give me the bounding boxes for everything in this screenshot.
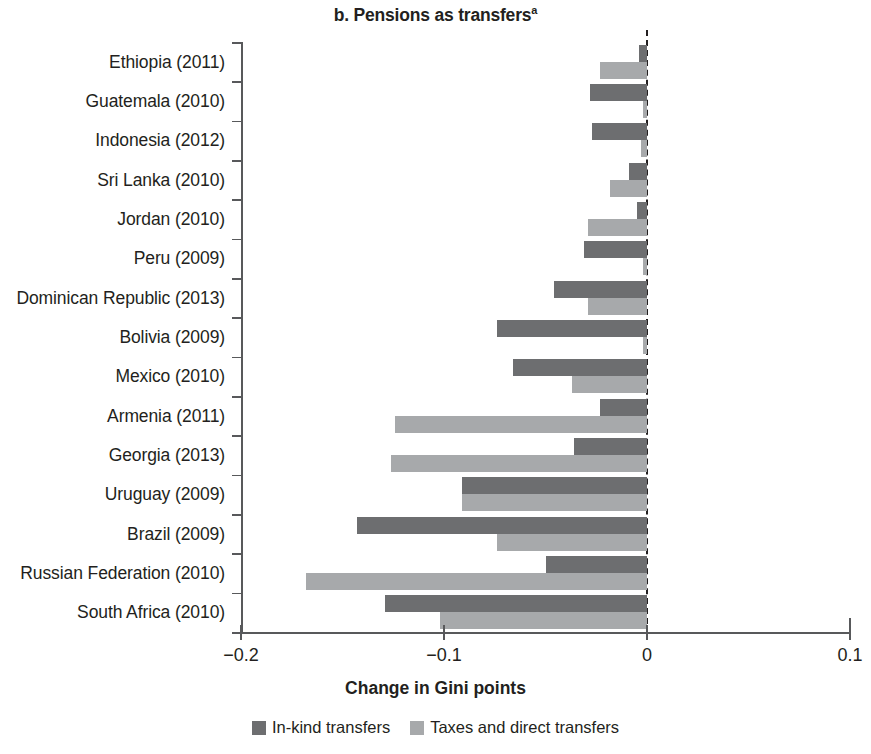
bar-taxes-direct	[572, 376, 647, 393]
y-axis-tick	[232, 121, 242, 123]
bar-in-kind	[639, 45, 647, 62]
bar-taxes-direct	[641, 140, 647, 157]
legend-label: In-kind transfers	[272, 718, 390, 737]
bar-in-kind	[592, 123, 647, 140]
bar-taxes-direct	[643, 337, 647, 354]
bar-in-kind	[462, 477, 647, 494]
y-axis-tick	[232, 239, 242, 241]
y-axis-line	[241, 42, 243, 633]
bar-taxes-direct	[588, 219, 647, 236]
y-axis-tick	[232, 160, 242, 162]
y-axis-tick	[232, 357, 242, 359]
bar-taxes-direct	[440, 612, 647, 629]
y-axis-tick	[232, 553, 242, 555]
x-axis-tick	[646, 625, 648, 640]
x-axis-tick	[443, 625, 445, 640]
x-axis-ticklabel: 0.1	[837, 645, 862, 666]
bar-taxes-direct	[497, 534, 647, 551]
bar-taxes-direct	[395, 416, 647, 433]
bar-taxes-direct	[610, 180, 647, 197]
y-axis-label: Mexico (2010)	[115, 366, 225, 387]
y-axis-label: Armenia (2011)	[107, 405, 225, 426]
x-axis-ticklabel: 0	[642, 645, 652, 666]
x-axis-ticklabel: −0.1	[426, 645, 462, 666]
y-axis-tick	[232, 435, 242, 437]
bar-taxes-direct	[391, 455, 647, 472]
y-axis-tick	[232, 514, 242, 516]
bar-taxes-direct	[643, 101, 647, 118]
bar-in-kind	[629, 163, 647, 180]
bar-taxes-direct	[588, 298, 647, 315]
y-axis-label: Peru (2009)	[134, 248, 225, 269]
y-axis-tick	[232, 81, 242, 83]
x-axis-line	[241, 632, 851, 634]
bar-in-kind	[513, 359, 647, 376]
bar-taxes-direct	[306, 573, 647, 590]
bar-taxes-direct	[643, 258, 647, 275]
y-axis-label: Guatemala (2010)	[86, 91, 225, 112]
y-axis-tick	[232, 278, 242, 280]
y-axis-label: Georgia (2013)	[109, 445, 225, 466]
y-axis-label: Uruguay (2009)	[105, 484, 225, 505]
y-axis-label: Brazil (2009)	[127, 523, 225, 544]
legend-swatch-icon	[252, 721, 266, 735]
x-axis-ticklabel: −0.2	[223, 645, 259, 666]
x-axis-title: Change in Gini points	[0, 678, 871, 699]
bar-in-kind	[357, 517, 647, 534]
bar-in-kind	[546, 556, 648, 573]
legend-swatch-icon	[410, 721, 424, 735]
y-axis-tick	[232, 593, 242, 595]
legend-entry: In-kind transfers	[252, 718, 390, 737]
chart-figure: b. Pensions as transfersa Ethiopia (2011…	[0, 0, 871, 754]
bar-in-kind	[385, 595, 647, 612]
x-axis-tick	[849, 625, 851, 640]
x-axis-tick	[240, 625, 242, 640]
chart-title-text: b. Pensions as transfers	[334, 5, 532, 25]
chart-title-footnote-marker: a	[531, 4, 537, 16]
bar-in-kind	[554, 281, 647, 298]
y-axis-label: Ethiopia (2011)	[109, 51, 225, 72]
y-axis-tick	[232, 317, 242, 319]
bar-in-kind	[584, 241, 647, 258]
bar-taxes-direct	[462, 494, 647, 511]
y-axis-label: Bolivia (2009)	[119, 327, 225, 348]
bar-in-kind	[590, 84, 647, 101]
y-axis-label: Sri Lanka (2010)	[97, 169, 225, 190]
bar-in-kind	[637, 202, 647, 219]
y-axis-label: Russian Federation (2010)	[20, 563, 225, 584]
chart-legend: In-kind transfersTaxes and direct transf…	[0, 718, 871, 737]
y-axis-tick	[232, 475, 242, 477]
y-axis-tick	[232, 199, 242, 201]
legend-label: Taxes and direct transfers	[430, 718, 619, 737]
y-axis-label: South Africa (2010)	[77, 602, 225, 623]
legend-entry: Taxes and direct transfers	[410, 718, 619, 737]
bar-taxes-direct	[600, 62, 647, 79]
chart-title: b. Pensions as transfersa	[0, 4, 871, 26]
y-axis-tick	[232, 396, 242, 398]
bar-in-kind	[574, 438, 647, 455]
bar-in-kind	[497, 320, 647, 337]
y-axis-label: Jordan (2010)	[117, 209, 225, 230]
y-axis-tick	[232, 42, 242, 44]
y-axis-label: Indonesia (2012)	[95, 130, 225, 151]
bar-in-kind	[600, 399, 647, 416]
y-axis-label: Dominican Republic (2013)	[16, 287, 225, 308]
